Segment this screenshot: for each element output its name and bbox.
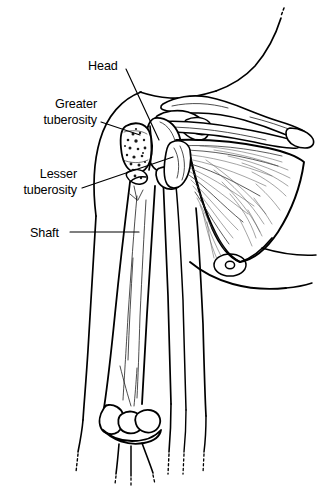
label-shaft: Shaft — [30, 226, 60, 240]
label-lesser-tuberosity-line2: tuberosity — [23, 183, 77, 197]
label-lesser-tuberosity-line1: Lesser — [40, 167, 77, 181]
label-shaft-text: Shaft — [30, 226, 60, 240]
label-greater-tuberosity-line2: tuberosity — [43, 113, 97, 127]
humerus-illustration: Head Greater tuberosity Lesser tuberosit… — [0, 0, 318, 486]
nipple-marking — [214, 254, 246, 276]
anatomy-figure: Head Greater tuberosity Lesser tuberosit… — [0, 0, 318, 486]
label-head-text: Head — [88, 59, 118, 73]
label-head: Head — [88, 59, 118, 73]
label-greater-tuberosity-line1: Greater — [55, 97, 97, 111]
